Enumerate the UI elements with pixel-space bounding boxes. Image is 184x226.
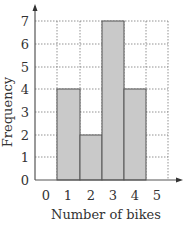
svg-text:4: 4: [131, 188, 139, 203]
x-tick-labels: 0 1 2 3 4 5: [42, 188, 161, 203]
svg-text:5: 5: [153, 188, 161, 203]
bar-4: [124, 89, 146, 180]
svg-text:2: 2: [21, 128, 29, 143]
bar-3: [102, 21, 124, 180]
x-axis-label: Number of bikes: [51, 207, 161, 222]
svg-text:3: 3: [21, 105, 29, 120]
svg-text:6: 6: [21, 37, 29, 52]
svg-text:1: 1: [21, 150, 29, 165]
svg-text:0: 0: [42, 188, 50, 203]
y-axis-arrow-icon: [33, 4, 38, 11]
svg-text:3: 3: [109, 188, 117, 203]
svg-text:1: 1: [64, 188, 72, 203]
y-axis-label: Frequency: [0, 76, 15, 147]
y-tick-labels: 0 1 2 3 4 5 6 7: [21, 14, 29, 188]
svg-text:0: 0: [21, 173, 29, 188]
svg-text:7: 7: [21, 14, 29, 29]
x-axis-arrow-icon: [176, 178, 183, 183]
svg-text:5: 5: [21, 60, 29, 75]
histogram-chart: 0 1 2 3 4 5 6 7 0 1 2 3 4 5 Number of bi…: [0, 0, 184, 226]
bars: [57, 21, 146, 180]
bar-2: [80, 135, 102, 180]
bar-1: [57, 89, 80, 180]
svg-text:2: 2: [87, 188, 95, 203]
svg-text:4: 4: [21, 82, 29, 97]
